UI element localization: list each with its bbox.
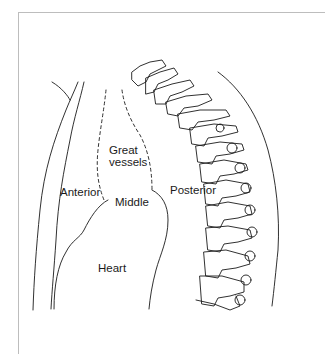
pericardium-anterior-line	[54, 200, 108, 309]
label-anterior: Anterior	[60, 186, 100, 199]
great-vessels-left-outline	[97, 90, 106, 200]
posterior-chest-wall	[218, 72, 279, 306]
heart-outline	[149, 190, 168, 309]
label-vessels: vessels	[109, 156, 147, 169]
great-vessels-right-outline	[122, 90, 152, 190]
mediastinum-diagram	[0, 0, 325, 354]
label-heart: Heart	[98, 262, 126, 275]
anterior-chest-wall-outer	[52, 82, 70, 100]
label-posterior: Posterior	[170, 184, 216, 197]
label-middle: Middle	[115, 196, 149, 209]
